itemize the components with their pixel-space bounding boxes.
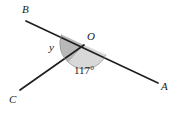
geometry-canvas [0,0,180,114]
geometry-figure: B O A C y 117° [0,0,180,114]
angle-label-117-degrees: 117° [74,65,95,76]
point-label-o: O [87,31,95,42]
point-label-a: A [161,81,168,92]
angle-label-y: y [49,42,54,53]
point-label-b: B [22,4,29,15]
point-label-c: C [9,94,16,105]
